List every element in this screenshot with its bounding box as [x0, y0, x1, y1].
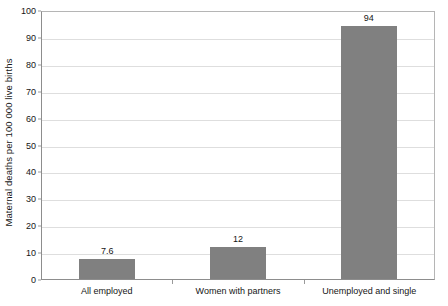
- x-axis-labels: All employedWomen with partnersUnemploye…: [41, 286, 435, 302]
- bar-slot: 12: [173, 12, 304, 279]
- y-axis-tick-label: 0: [31, 275, 36, 285]
- x-axis-category-label: All employed: [41, 286, 172, 302]
- bar-value-label: 12: [233, 234, 243, 244]
- x-axis-category-label: Women with partners: [172, 286, 303, 302]
- x-axis-tick-mark: [172, 280, 173, 284]
- y-axis-tick-label: 10: [26, 248, 36, 258]
- bar: 94: [341, 26, 397, 279]
- bar-series: 7.61294: [42, 12, 434, 279]
- bar-value-label: 7.6: [101, 246, 114, 256]
- x-axis-tick-mark: [304, 280, 305, 284]
- y-axis-tick-label: 50: [26, 141, 36, 151]
- bar-chart: Maternal deaths per 100 000 live births …: [0, 0, 448, 306]
- y-axis-title-text: Maternal deaths per 100 000 live births: [3, 58, 14, 226]
- y-axis-tick-label: 100: [21, 6, 36, 16]
- y-axis-tick-label: 90: [26, 33, 36, 43]
- bar-value-label: 94: [364, 13, 374, 23]
- y-axis-tick-label: 40: [26, 167, 36, 177]
- bar: 7.6: [79, 259, 135, 279]
- y-axis-ticks: 0102030405060708090100: [14, 11, 39, 280]
- y-axis-tick-label: 30: [26, 194, 36, 204]
- plot-area: 7.61294: [41, 11, 435, 280]
- x-axis-ticks: [41, 280, 435, 285]
- bar-slot: 7.6: [42, 12, 173, 279]
- y-axis-tick-label: 80: [26, 60, 36, 70]
- y-axis-tick-label: 20: [26, 221, 36, 231]
- bar: 12: [210, 247, 266, 279]
- x-axis-category-label: Unemployed and single: [304, 286, 435, 302]
- y-axis-tick-label: 60: [26, 114, 36, 124]
- y-axis-tick-label: 70: [26, 87, 36, 97]
- bar-slot: 94: [303, 12, 434, 279]
